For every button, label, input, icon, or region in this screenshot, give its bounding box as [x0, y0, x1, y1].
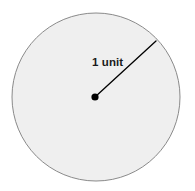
center-point-marker — [91, 93, 98, 100]
unit-circle-figure: 1 unit — [0, 0, 195, 191]
circle-diagram-canvas: 1 unit — [0, 0, 195, 191]
radius-label: 1 unit — [92, 56, 123, 68]
